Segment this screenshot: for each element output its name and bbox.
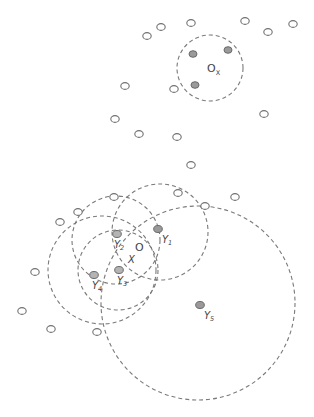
- empty-point: [18, 308, 26, 315]
- empty-point: [110, 194, 118, 201]
- label-y3: Y3: [117, 275, 127, 288]
- empty-point: [74, 209, 82, 216]
- cluster-ox-point: [189, 51, 197, 58]
- empty-point: [187, 20, 195, 27]
- unlabeled-points: [18, 18, 297, 336]
- neighborhood-circles: [48, 184, 295, 400]
- empty-point: [241, 18, 249, 25]
- empty-point: [260, 111, 268, 118]
- empty-point: [201, 203, 209, 210]
- center-x-label: X: [127, 254, 136, 265]
- label-y2: Y2: [114, 239, 124, 252]
- point-y5: [196, 302, 205, 309]
- point-y3: [115, 267, 124, 274]
- empty-point: [157, 24, 165, 31]
- empty-point: [111, 116, 119, 123]
- label-y5: Y5: [204, 310, 214, 323]
- empty-point: [289, 21, 297, 28]
- empty-point: [264, 29, 272, 36]
- empty-point: [93, 329, 101, 336]
- point-y4: [90, 272, 99, 279]
- point-y2: [113, 231, 122, 238]
- cluster-ox-point: [191, 82, 199, 89]
- empty-point: [174, 190, 182, 197]
- empty-point: [47, 326, 55, 333]
- circle-y4: [48, 216, 156, 324]
- label-y4: Y4: [92, 280, 102, 293]
- empty-point: [173, 134, 181, 141]
- empty-point: [56, 219, 64, 226]
- center-o-label: O: [135, 241, 144, 254]
- diagram-canvas: Y1Y2Y3Y4Y5 OX O X: [0, 0, 314, 417]
- cluster-ox-label: OX: [207, 62, 221, 77]
- empty-point: [170, 86, 178, 93]
- empty-point: [143, 33, 151, 40]
- empty-point: [135, 131, 143, 138]
- point-y1: [154, 226, 163, 233]
- empty-point: [31, 269, 39, 276]
- empty-point: [187, 162, 195, 169]
- empty-point: [121, 83, 129, 90]
- label-y1: Y1: [162, 234, 172, 247]
- cluster-ox-point: [224, 47, 232, 54]
- empty-point: [231, 194, 239, 201]
